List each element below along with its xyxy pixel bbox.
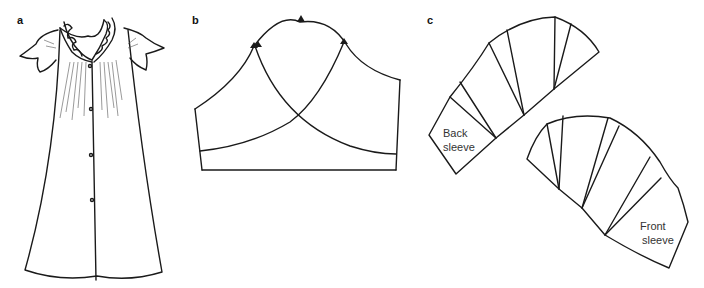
back-sleeve-piece: Back sleeve xyxy=(429,17,599,174)
notch-right-icon xyxy=(340,38,348,44)
front-sleeve-piece: Front sleeve xyxy=(527,116,688,268)
front-sleeve-label-line1: Front xyxy=(640,220,666,232)
notch-top-icon xyxy=(297,15,305,22)
panel-c: c Back sleeve Front sleeve xyxy=(427,14,688,268)
button xyxy=(90,108,93,111)
panel-a-label: a xyxy=(17,14,24,26)
front-sleeve-label-line2: sleeve xyxy=(642,234,674,246)
button xyxy=(89,65,92,68)
sleeve-pattern-drawing xyxy=(195,15,400,170)
panel-c-label: c xyxy=(427,14,433,26)
nightgown-drawing xyxy=(20,18,164,280)
button xyxy=(91,199,94,202)
panel-b-label: b xyxy=(192,14,199,26)
figure-canvas: a xyxy=(0,0,704,288)
panel-a: a xyxy=(17,14,164,280)
back-sleeve-label-line1: Back xyxy=(443,127,468,139)
front-placket xyxy=(92,62,96,280)
panel-b: b xyxy=(192,14,400,170)
button xyxy=(90,154,93,157)
back-sleeve-label-line2: sleeve xyxy=(443,141,475,153)
